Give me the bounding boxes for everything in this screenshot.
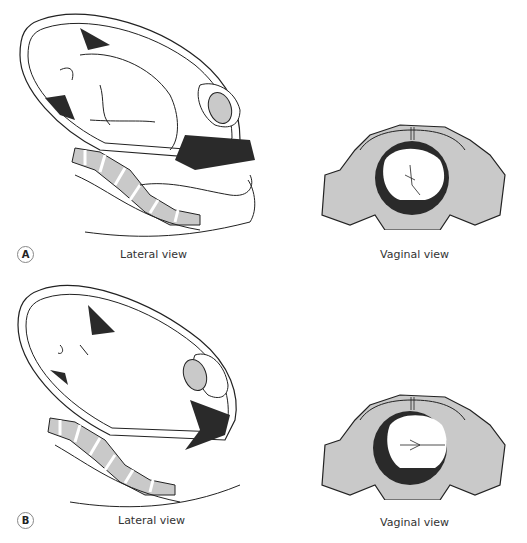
panel-b: B Lateral view Vaginal view <box>0 270 527 543</box>
vaginal-view-caption-a: Vaginal view <box>380 248 449 261</box>
lateral-view-illustration-b <box>0 270 280 510</box>
lateral-view-caption-a: Lateral view <box>120 248 187 261</box>
vaginal-view-illustration-a <box>300 50 527 230</box>
vaginal-view-illustration-b <box>300 320 527 500</box>
panel-a: A Lateral view Vaginal view <box>0 0 527 270</box>
vaginal-view-caption-b: Vaginal view <box>380 516 449 529</box>
panel-label-a: A <box>17 246 34 263</box>
lateral-view-illustration-a <box>0 0 280 240</box>
lateral-view-caption-b: Lateral view <box>118 514 185 527</box>
panel-label-b: B <box>17 512 34 529</box>
